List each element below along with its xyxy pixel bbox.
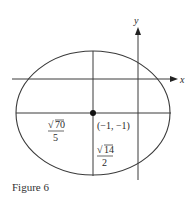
center-point <box>90 110 96 116</box>
svg-text:70: 70 <box>55 119 65 130</box>
y-axis-arrow-icon <box>135 27 141 35</box>
x-axis-label: x <box>179 74 185 85</box>
svg-text:√: √ <box>48 119 54 130</box>
svg-text:5: 5 <box>53 132 58 143</box>
y-axis-label: y <box>133 15 139 26</box>
svg-text:2: 2 <box>102 157 107 168</box>
svg-text:√: √ <box>97 144 103 155</box>
svg-text:14: 14 <box>104 144 114 155</box>
x-axis-arrow-icon <box>170 76 178 82</box>
center-label: (−1, −1) <box>97 120 130 132</box>
figure-caption: Figure 6 <box>12 181 49 193</box>
ellipse-diagram: x y (−1, −1) √ 70 5 √ 14 2 <box>0 0 191 198</box>
horizontal-semi-axis-label: √ 70 5 <box>48 119 65 143</box>
vertical-semi-axis-label: √ 14 2 <box>97 144 114 168</box>
